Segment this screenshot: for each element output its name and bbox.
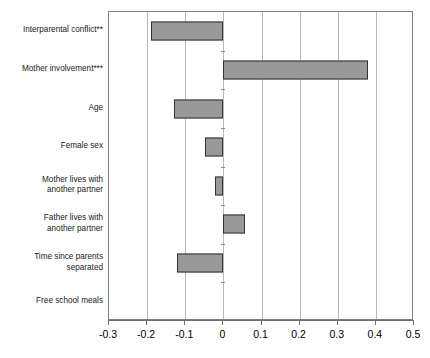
x-axis-tick-label: 0.3 xyxy=(329,328,344,340)
category-label: Free school meals xyxy=(0,295,103,306)
x-axis-tick xyxy=(261,320,262,325)
x-axis-tick xyxy=(337,320,338,325)
x-axis-tick xyxy=(299,320,300,325)
x-axis-tick xyxy=(184,320,185,325)
bar-row xyxy=(109,89,412,128)
x-axis-tick-label: 0.5 xyxy=(406,328,421,340)
category-label: Age xyxy=(0,102,103,113)
x-axis-tick-label: -0.2 xyxy=(137,328,155,340)
x-axis-tick xyxy=(413,320,414,325)
bar xyxy=(215,176,223,195)
bar xyxy=(177,254,224,273)
x-axis-tick-label: 0.1 xyxy=(253,328,268,340)
bar xyxy=(151,22,223,41)
category-label: Female sex xyxy=(0,141,103,152)
bar-row xyxy=(109,205,412,244)
x-axis-tick-label: 0.4 xyxy=(368,328,383,340)
bar-row xyxy=(109,244,412,283)
bar xyxy=(174,99,224,118)
bar-row xyxy=(109,128,412,167)
bar-row xyxy=(109,12,412,51)
category-label: Interparental conflict** xyxy=(0,25,103,36)
x-axis-tick-label: 0 xyxy=(219,328,225,340)
bar-chart: Interparental conflict**Mother involveme… xyxy=(0,0,430,358)
category-label: Mother involvement*** xyxy=(0,64,103,75)
x-axis-tick xyxy=(108,320,109,325)
category-label: Mother lives with another partner xyxy=(0,174,103,195)
bar-row xyxy=(109,51,412,90)
bar xyxy=(223,215,245,234)
category-axis-labels: Interparental conflict**Mother involveme… xyxy=(0,11,103,320)
x-axis: -0.3-0.2-0.100.10.20.30.40.5 xyxy=(108,320,413,358)
x-axis-tick xyxy=(146,320,147,325)
bar-row xyxy=(109,282,412,321)
category-label: Father lives with another partner xyxy=(0,213,103,234)
category-label: Time since parents separated xyxy=(0,252,103,273)
bar-row xyxy=(109,167,412,206)
x-axis-tick-label: 0.2 xyxy=(291,328,306,340)
x-axis-tick xyxy=(222,320,223,325)
bar xyxy=(223,60,368,79)
x-axis-tick-label: -0.3 xyxy=(99,328,117,340)
plot-area xyxy=(108,11,413,320)
x-axis-tick-label: -0.1 xyxy=(175,328,193,340)
bar xyxy=(205,138,223,157)
x-axis-tick xyxy=(375,320,376,325)
